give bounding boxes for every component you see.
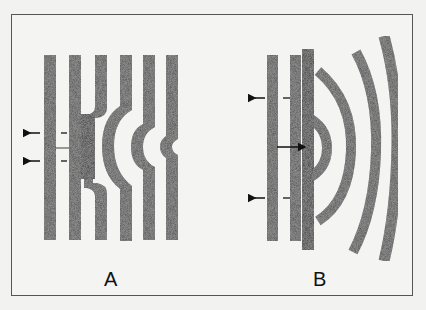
- panel-b-stripe-1: [267, 55, 278, 241]
- panel-b-arc-3: [353, 52, 376, 252]
- panel-a-label: A: [104, 268, 117, 291]
- panel-b: [267, 36, 397, 261]
- panel-a-stripe-5: [131, 55, 155, 240]
- panel-b-label: B: [313, 268, 326, 291]
- panel-a: [44, 55, 178, 241]
- panel-a-solid-block: [81, 114, 95, 179]
- panel-b-stripe-2: [290, 55, 301, 241]
- panel-a-stripe-1: [44, 55, 56, 240]
- diagram-canvas: [0, 0, 426, 310]
- panel-a-stripe-6: [160, 55, 178, 240]
- panel-b-solid-block: [302, 49, 314, 250]
- panel-b-arc-4: [384, 36, 397, 261]
